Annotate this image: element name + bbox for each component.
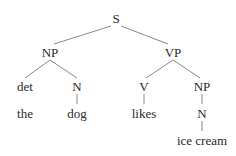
leaf-dog: dog [67,107,87,120]
edge-s-vp [121,26,168,44]
node-s: S [112,12,119,25]
edge-np-det [25,60,50,78]
edge-s-np [54,26,111,44]
edge-vp-v [146,60,173,78]
node-vp: VP [165,46,182,59]
edge-np-n [50,60,77,78]
node-np-object: NP [194,80,211,93]
node-det: det [17,80,33,93]
edge-vp-np [173,60,200,78]
syntax-tree: S NP VP det N V NP the dog likes N ice c… [0,0,236,156]
node-n-subject: N [72,80,81,93]
leaf-likes: likes [132,107,157,120]
node-np-subject: NP [42,46,59,59]
node-v: V [139,80,148,93]
leaf-ice-cream: ice cream [177,134,227,147]
node-n-object: N [197,107,206,120]
leaf-the: the [17,107,33,120]
